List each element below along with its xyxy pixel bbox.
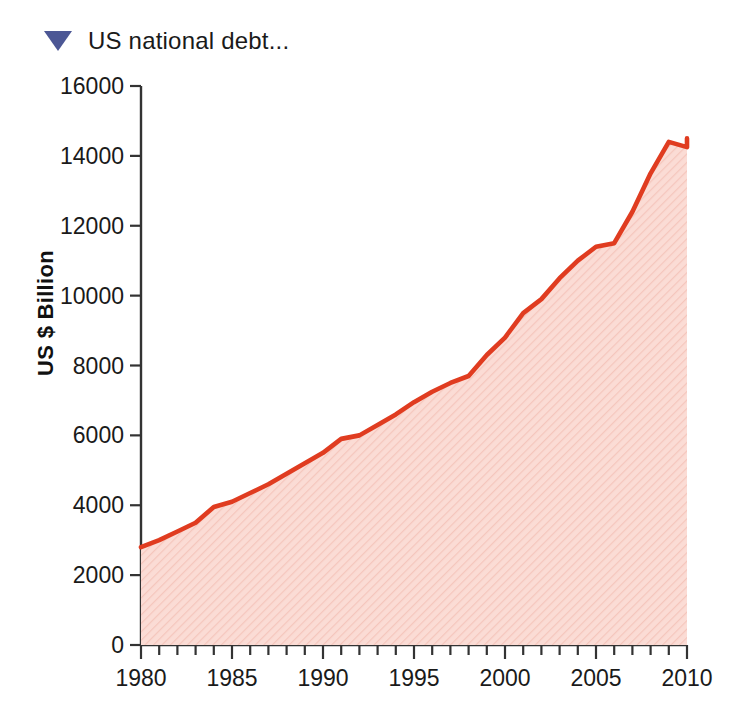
x-tick-label: 2010	[661, 665, 712, 692]
y-tick-label: 10000	[60, 282, 124, 309]
y-tick-label: 2000	[73, 562, 124, 589]
y-tick-label: 14000	[60, 142, 124, 169]
x-tick-label: 2000	[479, 665, 530, 692]
y-tick-label: 4000	[73, 492, 124, 519]
x-tick-label: 1995	[388, 665, 439, 692]
area-fill	[141, 138, 687, 645]
x-tick-label: 2005	[570, 665, 621, 692]
x-tick-label: 1985	[206, 665, 257, 692]
y-tick-label: 12000	[60, 212, 124, 239]
chart-container: US national debt... US $ Billion 0200040…	[0, 0, 744, 716]
x-tick-label: 1990	[297, 665, 348, 692]
y-tick-label: 16000	[60, 73, 124, 100]
y-tick-label: 0	[111, 632, 124, 659]
x-tick-label: 1980	[115, 665, 166, 692]
y-tick-label: 8000	[73, 352, 124, 379]
y-tick-label: 6000	[73, 422, 124, 449]
